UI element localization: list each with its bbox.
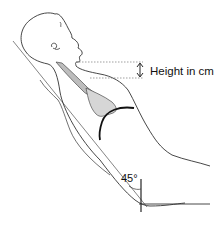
angle-45-label: 45° xyxy=(121,172,138,184)
face-detail xyxy=(60,22,61,27)
height-in-cm-label: Height in cm xyxy=(150,65,214,77)
ear xyxy=(51,43,60,49)
measurement-arrow xyxy=(137,63,143,77)
right-atrium-shading xyxy=(86,88,116,116)
head-profile xyxy=(21,13,82,66)
chest-outline xyxy=(76,66,210,166)
jvp-diagram xyxy=(0,0,220,229)
